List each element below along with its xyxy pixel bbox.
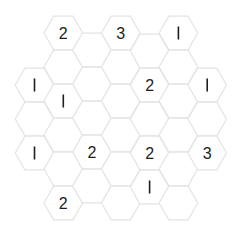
cell-number: 2 xyxy=(59,195,68,212)
cell-number: 2 xyxy=(59,25,68,42)
cell-number: 2 xyxy=(145,145,154,162)
cell-number: 2 xyxy=(88,144,97,161)
cell-number: 2 xyxy=(145,77,154,94)
cell-number: 3 xyxy=(116,25,125,42)
hex-puzzle-board: 1121223221113 xyxy=(0,0,242,229)
cell-number: 3 xyxy=(203,145,212,162)
